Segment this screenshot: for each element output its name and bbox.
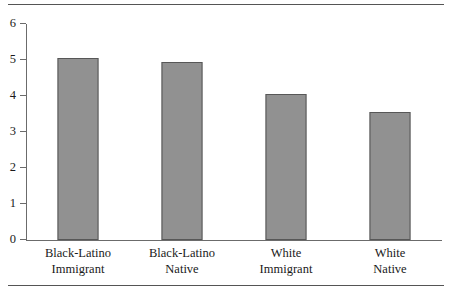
x-axis-label-line: White [271,246,302,260]
bar[interactable] [370,112,411,240]
y-tick-label-1: 1 [0,197,16,210]
y-tick-label-3: 3 [0,125,16,138]
x-axis-label: WhiteImmigrant [234,245,338,277]
y-tick-label-4: 4 [0,89,16,102]
bar[interactable] [162,62,203,240]
bar[interactable] [58,58,99,240]
x-axis-label-line: Black-Latino [45,246,111,260]
y-tick-label-6: 6 [0,17,16,30]
x-axis-category-labels: Black-LatinoImmigrantBlack-LatinoNativeW… [26,245,442,283]
plot-area [26,24,442,240]
y-tick-label-5: 5 [0,53,16,66]
x-axis-label-line: Black-Latino [149,246,215,260]
y-tick-label-0: 0 [0,233,16,246]
bar-slot [26,24,130,240]
bar-chart-figure: 0123456 Black-LatinoImmigrantBlack-Latin… [0,0,452,294]
x-axis-line [26,240,442,241]
x-axis-label-line: Native [130,261,234,277]
x-axis-label-line: Immigrant [234,261,338,277]
y-tick-label-2: 2 [0,161,16,174]
bar-slot [234,24,338,240]
x-axis-label: Black-LatinoImmigrant [26,245,130,277]
bar-slot [338,24,442,240]
x-axis-label: Black-LatinoNative [130,245,234,277]
x-axis-label: WhiteNative [338,245,442,277]
x-axis-label-line: Immigrant [26,261,130,277]
x-axis-label-line: Native [338,261,442,277]
x-axis-label-line: White [375,246,406,260]
bar-slot [130,24,234,240]
bar[interactable] [266,94,307,240]
